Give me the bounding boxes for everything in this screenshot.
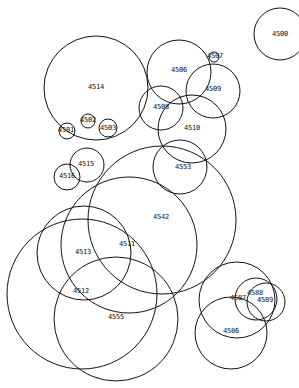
circle-label-4507: 4507 [207,52,223,60]
circle-label-4587: 4587 [230,294,246,302]
circle-label-4515: 4515 [78,160,94,168]
circle-label-4509: 4509 [205,85,221,93]
circle-overlap-diagram: 4500451445064507450945084510450245014503… [0,0,299,388]
circles-layer [7,8,299,381]
circle-label-4516: 4516 [59,172,75,180]
circle-label-4510: 4510 [184,124,200,132]
circle-label-4500: 4500 [272,30,288,38]
circle-label-4511: 4511 [119,240,135,248]
circle-label-4501: 4501 [58,126,74,134]
circle-label-4514: 4514 [88,83,104,91]
circle-label-4553: 4553 [175,163,191,171]
circle-label-4589: 4589 [257,296,273,304]
circle-label-4555: 4555 [108,313,124,321]
circle-label-4503: 4503 [100,124,116,132]
circle-label-4542: 4542 [153,213,169,221]
labels-layer: 4500451445064507450945084510450245014503… [58,30,288,335]
circle-label-4506: 4506 [171,66,187,74]
circle-label-4502: 4502 [80,116,96,124]
circle-label-4508: 4508 [153,103,169,111]
circle-label-4586: 4586 [223,327,239,335]
circle-label-4513: 4513 [75,248,91,256]
circle-label-4512: 4512 [73,287,89,295]
